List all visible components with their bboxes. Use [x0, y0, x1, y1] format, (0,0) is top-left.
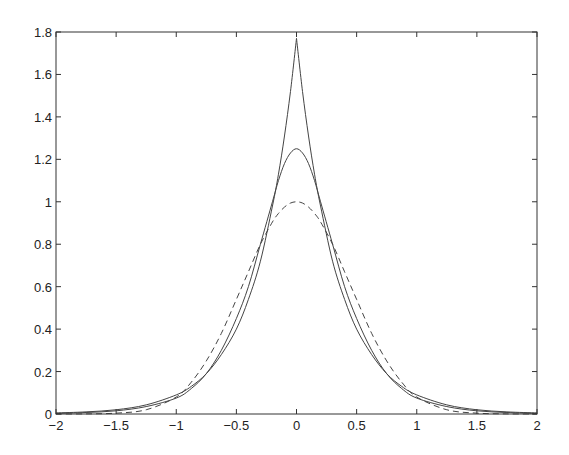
y-tick-label: 1.6 — [34, 67, 52, 82]
y-tick-label: 1.8 — [34, 25, 52, 40]
y-tick-label: 0.2 — [34, 365, 52, 380]
curve-series-0 — [56, 38, 537, 413]
x-tick-label: −1 — [169, 418, 184, 433]
x-tick-label: 0 — [293, 418, 300, 433]
curve-series-1 — [56, 149, 537, 414]
x-tick-label: 1.5 — [468, 418, 486, 433]
y-tick-label: 0.4 — [34, 322, 52, 337]
plot-curves — [56, 38, 537, 414]
x-tick-label: 2 — [533, 418, 540, 433]
x-axis-ticks: −2−1.5−1−0.500.511.52 — [49, 32, 541, 433]
curve-series-2 — [56, 202, 537, 414]
y-tick-label: 0.6 — [34, 280, 52, 295]
x-tick-label: −0.5 — [224, 418, 250, 433]
y-tick-label: 1.4 — [34, 110, 52, 125]
y-tick-label: 1 — [45, 195, 52, 210]
x-tick-label: 1 — [413, 418, 420, 433]
y-tick-label: 0 — [45, 407, 52, 422]
x-tick-label: 0.5 — [348, 418, 366, 433]
y-tick-label: 0.8 — [34, 237, 52, 252]
y-axis-ticks: 00.20.40.60.811.21.41.61.8 — [34, 25, 537, 422]
x-tick-label: −1.5 — [103, 418, 129, 433]
y-tick-label: 1.2 — [34, 152, 52, 167]
line-chart: −2−1.5−1−0.500.511.52 00.20.40.60.811.21… — [0, 0, 569, 455]
axes-frame — [56, 32, 537, 414]
